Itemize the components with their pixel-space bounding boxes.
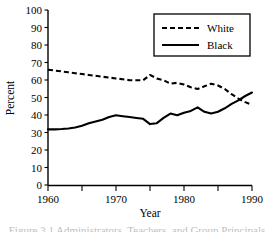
figure-caption: Figure 3.1 Administrators, Teachers, and… bbox=[0, 224, 274, 232]
legend: White Black bbox=[154, 14, 250, 56]
y-tick-label: 0 bbox=[37, 179, 43, 191]
y-tick-label: 30 bbox=[31, 127, 43, 139]
x-tick-label: 1960 bbox=[37, 193, 60, 205]
y-tick-label: 70 bbox=[31, 57, 43, 69]
x-axis-title: Year bbox=[139, 207, 160, 219]
series-line-white bbox=[48, 70, 252, 105]
y-tick-label: 20 bbox=[31, 144, 43, 156]
x-tick-label: 1990 bbox=[241, 193, 264, 205]
y-tick-label: 80 bbox=[31, 39, 43, 51]
x-tick-label: 1970 bbox=[105, 193, 128, 205]
line-chart: 100 90 80 70 60 50 40 30 20 10 0 1960 19… bbox=[0, 0, 274, 232]
series-line-black bbox=[48, 92, 252, 129]
y-tick-label: 40 bbox=[31, 109, 43, 121]
figure-container: 100 90 80 70 60 50 40 30 20 10 0 1960 19… bbox=[0, 0, 274, 232]
series-group bbox=[48, 70, 252, 130]
y-tick-label: 60 bbox=[31, 74, 43, 86]
legend-label-black: Black bbox=[207, 39, 233, 51]
y-tick-label: 10 bbox=[31, 162, 43, 174]
y-tick-label: 90 bbox=[31, 22, 43, 34]
y-axis-tick-labels: 100 90 80 70 60 50 40 30 20 10 0 bbox=[26, 4, 43, 191]
y-tick-label: 100 bbox=[26, 4, 43, 16]
x-axis-ticks bbox=[48, 186, 252, 192]
x-tick-label: 1980 bbox=[173, 193, 196, 205]
y-tick-label: 50 bbox=[31, 92, 43, 104]
x-axis-tick-labels: 1960 1970 1980 1990 bbox=[37, 193, 264, 205]
legend-box bbox=[154, 14, 250, 56]
y-axis-title: Percent bbox=[4, 80, 16, 115]
legend-label-white: White bbox=[207, 22, 234, 34]
